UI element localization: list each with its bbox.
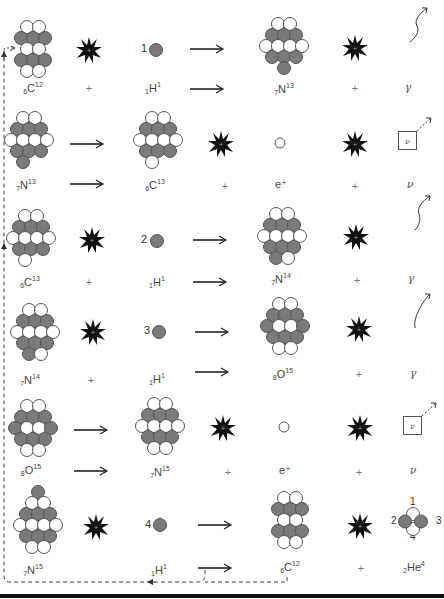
plus-sign: +	[354, 274, 360, 286]
nucleus-n15-product	[130, 396, 190, 476]
proton-icon	[151, 324, 167, 340]
nucleus-o15-product	[255, 296, 315, 376]
equation-arrow	[74, 466, 108, 476]
isotope-label-h1: 1H1	[149, 372, 165, 386]
equation-arrow	[190, 84, 224, 94]
svg-text:ν: ν	[410, 422, 415, 431]
reaction-burst-icon: +	[342, 35, 368, 61]
neutrino-label: ν	[410, 464, 417, 477]
isotope-label-h1: 1H1	[145, 81, 161, 95]
isotope-label-c13: 6C13	[145, 178, 165, 192]
gamma-ray-wavy-arrow-icon	[412, 192, 442, 232]
isotope-label-c12: 6C12	[23, 81, 43, 95]
reaction-burst-icon: +	[347, 513, 373, 539]
nucleus-c12-product	[265, 490, 315, 560]
svg-text:+: +	[358, 425, 362, 432]
plus-sign: +	[358, 562, 364, 574]
plus-sign: +	[86, 82, 92, 94]
nucleon-number-3: 3	[436, 515, 442, 526]
plus-sign: +	[356, 368, 362, 380]
isotope-label-o15: 8O15	[21, 463, 41, 477]
isotope-label-h1: 1H1	[149, 275, 165, 289]
svg-text:+: +	[91, 329, 95, 336]
gamma-ray-wavy-arrow-icon	[412, 290, 442, 330]
isotope-label-h1: 1H1	[151, 563, 167, 577]
reaction-arrow	[195, 327, 229, 337]
bottom-rule	[0, 594, 444, 598]
reaction-burst-icon: +	[208, 131, 234, 157]
proton-icon	[149, 233, 165, 249]
reaction-arrow	[193, 235, 227, 245]
gamma-label: γ	[410, 367, 417, 380]
plus-sign: +	[352, 180, 358, 192]
nucleus-n15-reactant	[8, 484, 68, 574]
svg-text:+: +	[358, 523, 362, 530]
reaction-burst-icon: +	[83, 514, 109, 540]
reaction-arrow	[74, 425, 108, 435]
proton-number: 4	[145, 518, 151, 530]
proton-icon	[148, 42, 164, 58]
reaction-arrow	[198, 520, 232, 530]
equation-arrow	[195, 367, 229, 377]
isotope-label-c13: 6C13	[20, 275, 40, 289]
positron-circle-icon	[273, 136, 287, 150]
svg-text:+: +	[87, 47, 91, 54]
gamma-label: γ	[405, 81, 412, 94]
svg-text:+: +	[354, 234, 358, 241]
plus-sign: +	[352, 82, 358, 94]
svg-text:+: +	[219, 141, 223, 148]
nucleus-c12-reactant	[8, 16, 58, 86]
helium-4-alpha-particle	[396, 506, 436, 538]
reaction-burst-icon: +	[343, 224, 369, 250]
plus-sign: +	[86, 276, 92, 288]
equation-arrow	[193, 277, 227, 287]
svg-text:+: +	[94, 524, 98, 531]
reaction-arrow	[190, 44, 224, 54]
reaction-burst-icon: +	[342, 131, 368, 157]
isotope-label-n15: 7N15	[23, 563, 43, 577]
isotope-label-n14: 7N14	[271, 272, 291, 286]
positron-circle-icon	[277, 420, 291, 434]
neutrino-box-icon: ν	[398, 115, 438, 155]
equation-arrow	[198, 563, 232, 573]
equation-arrow	[70, 179, 104, 189]
reaction-burst-icon: +	[80, 319, 106, 345]
reaction-arrow	[70, 139, 104, 149]
proton-number: 3	[144, 324, 150, 336]
proton-icon	[152, 517, 168, 533]
svg-text:+: +	[221, 425, 225, 432]
reaction-burst-icon: +	[210, 415, 236, 441]
reaction-burst-icon: +	[347, 415, 373, 441]
svg-text:+: +	[353, 141, 357, 148]
reaction-burst-icon: +	[76, 37, 102, 63]
isotope-label-n13: 7N13	[274, 82, 294, 96]
gamma-label: γ	[408, 272, 415, 285]
positron-label: e⁺	[279, 464, 291, 477]
isotope-label-n13: 7N13	[16, 178, 36, 192]
plus-sign: +	[222, 180, 228, 192]
svg-text:+: +	[357, 326, 361, 333]
neutrino-label: ν	[407, 178, 414, 191]
plus-sign: +	[356, 466, 362, 478]
plus-sign: +	[88, 374, 94, 386]
reaction-burst-icon: +	[79, 227, 105, 253]
proton-number: 1	[141, 42, 147, 54]
neutrino-box-icon: ν	[403, 400, 443, 440]
positron-label: e⁺	[275, 178, 287, 191]
isotope-label-he4: 2He4	[403, 560, 425, 574]
isotope-label-c12: 6C12	[280, 560, 300, 574]
svg-text:ν: ν	[405, 137, 410, 146]
isotope-label-o15: 8O15	[273, 367, 293, 381]
plus-sign: +	[225, 466, 231, 478]
gamma-ray-wavy-arrow-icon	[405, 4, 435, 44]
nucleus-n14-reactant	[5, 302, 65, 382]
isotope-label-n15: 7N15	[150, 465, 170, 479]
reaction-burst-icon: +	[346, 316, 372, 342]
proton-number: 2	[141, 233, 147, 245]
svg-text:+: +	[353, 45, 357, 52]
isotope-label-n14: 7N14	[20, 373, 40, 387]
svg-text:+: +	[90, 237, 94, 244]
